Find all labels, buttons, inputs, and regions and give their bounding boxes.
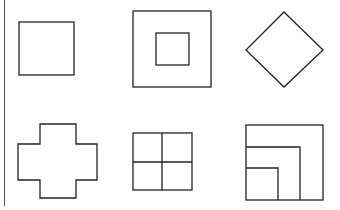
figure-cross bbox=[18, 124, 97, 198]
figure-four-grid bbox=[133, 133, 192, 190]
inner-square bbox=[156, 33, 189, 65]
outer-square bbox=[133, 11, 211, 87]
figure-square bbox=[19, 22, 74, 75]
outer-square bbox=[246, 125, 323, 200]
shapes-diagram bbox=[0, 0, 340, 210]
figure-diamond bbox=[246, 12, 323, 87]
figure-nested-squares bbox=[133, 11, 211, 87]
figure-nested-corner-squares bbox=[246, 125, 323, 200]
middle-square bbox=[246, 147, 300, 200]
inner-square bbox=[246, 168, 278, 200]
